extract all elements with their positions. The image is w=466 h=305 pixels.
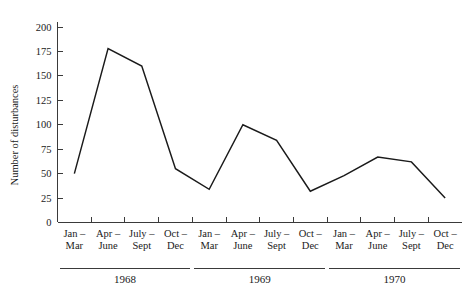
year-group-label: 1968 — [114, 273, 137, 285]
x-tick-label: July – — [399, 228, 425, 239]
figure-container: Number of disturbances 02550751001251501… — [0, 0, 466, 305]
x-tick-label: Apr – — [366, 228, 391, 239]
x-tick-label: Oct – — [299, 228, 323, 239]
y-axis-ticks: 0255075100125150175200 — [36, 22, 63, 229]
x-tick-label: June — [98, 240, 118, 251]
x-tick-label: Apr – — [96, 228, 121, 239]
x-tick-label: June — [233, 240, 253, 251]
y-tick-label: 200 — [36, 22, 52, 33]
x-tick-label: Dec — [302, 240, 319, 251]
x-tick-label: Sept — [402, 240, 421, 251]
x-tick-label: Oct – — [164, 228, 188, 239]
y-tick-label: 50 — [41, 168, 52, 179]
x-tick-label: July – — [129, 228, 155, 239]
year-group-labels: 196819691970 — [114, 273, 406, 285]
y-tick-label: 100 — [36, 119, 52, 130]
x-tick-label: Sept — [132, 240, 151, 251]
x-tick-label: Dec — [167, 240, 184, 251]
x-tick-label: Jan – — [333, 228, 356, 239]
year-group-label: 1969 — [249, 273, 272, 285]
year-group-label: 1970 — [384, 273, 407, 285]
x-tick-label: Jan – — [198, 228, 221, 239]
y-axis-title: Number of disturbances — [9, 85, 20, 186]
data-series — [74, 49, 445, 199]
y-axis-title-text: Number of disturbances — [9, 85, 20, 186]
x-tick-label: Dec — [437, 240, 454, 251]
x-tick-label: Jan – — [63, 228, 86, 239]
y-tick-label: 25 — [41, 193, 52, 204]
x-axis-ticks — [91, 217, 428, 223]
line-chart: Number of disturbances 02550751001251501… — [0, 0, 466, 305]
x-tick-label: Mar — [335, 240, 353, 251]
axis-lines — [58, 22, 463, 223]
y-tick-label: 0 — [46, 217, 51, 228]
y-tick-label: 125 — [36, 95, 52, 106]
y-tick-label: 150 — [36, 70, 52, 81]
x-tick-label: Apr – — [231, 228, 256, 239]
x-tick-label: Sept — [267, 240, 286, 251]
x-tick-label: July – — [264, 228, 290, 239]
x-tick-label: June — [368, 240, 388, 251]
x-axis-tick-labels: Jan –MarApr –JuneJuly –SeptOct –DecJan –… — [63, 228, 457, 251]
disturbances-line — [74, 49, 445, 199]
y-tick-label: 75 — [41, 144, 52, 155]
y-tick-label: 175 — [36, 46, 52, 57]
x-tick-label: Mar — [200, 240, 218, 251]
x-tick-label: Mar — [66, 240, 84, 251]
x-tick-label: Oct – — [434, 228, 458, 239]
